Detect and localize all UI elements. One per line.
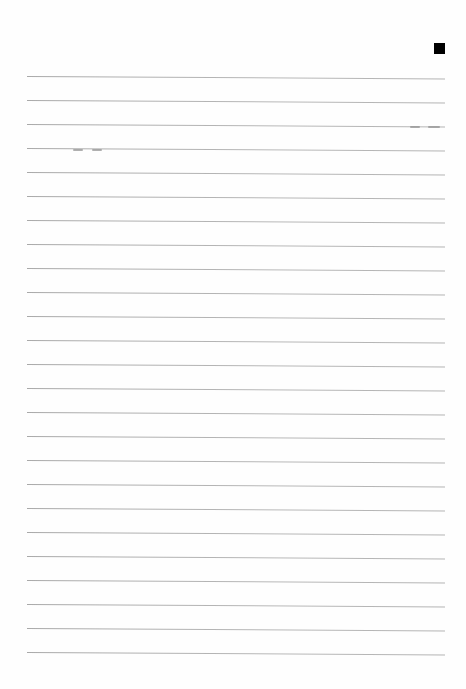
corner-marker-square [434,43,445,54]
ruled-line [27,292,445,295]
ruled-line [27,316,445,319]
ruled-line [27,652,445,655]
ruled-line [27,532,445,535]
ruled-line [27,100,445,103]
ruled-line [27,196,445,199]
scan-artifact [92,149,102,151]
ruled-line [27,76,445,79]
ruled-line [27,268,445,271]
lined-page [0,0,466,689]
ruled-line [27,628,445,631]
ruled-line [27,412,445,415]
ruled-line [27,604,445,607]
ruled-line [27,556,445,559]
ruled-line [27,484,445,487]
ruled-line [27,436,445,439]
ruled-line [27,124,445,127]
ruled-line [27,460,445,463]
ruled-line [27,508,445,511]
scan-artifact [428,126,440,128]
ruled-line [27,388,445,391]
scan-artifact [73,149,83,151]
ruled-line [27,220,445,223]
ruled-line [27,580,445,583]
scan-artifact [410,126,420,128]
ruled-line [27,148,445,151]
ruled-line [27,340,445,343]
ruled-line [27,364,445,367]
ruled-line [27,244,445,247]
ruled-line [27,172,445,175]
